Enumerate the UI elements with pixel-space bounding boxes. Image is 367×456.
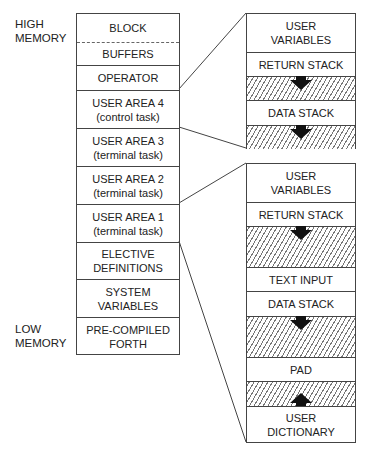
connector-lines: [0, 0, 367, 456]
connector-line: [179, 127, 246, 148]
connector-line: [179, 13, 246, 89]
connector-line: [179, 163, 246, 203]
connector-line: [179, 241, 246, 442]
